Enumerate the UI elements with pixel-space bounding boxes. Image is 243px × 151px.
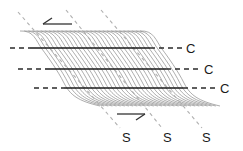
c-plane-label: C bbox=[220, 81, 229, 96]
s-plane-label: S bbox=[202, 130, 211, 145]
c-plane-label: C bbox=[186, 41, 195, 56]
bottom-dextral-arrow-icon bbox=[117, 114, 145, 120]
s-plane-label: S bbox=[163, 130, 172, 145]
s-plane-line bbox=[18, 12, 120, 128]
c-plane-label: C bbox=[204, 62, 213, 77]
top-sinistral-arrow-icon bbox=[43, 18, 72, 24]
plane-labels: SSSCCC bbox=[122, 41, 229, 145]
s-plane-label: S bbox=[122, 130, 131, 145]
s-c-fabric-diagram: SSSCCC bbox=[0, 0, 243, 151]
